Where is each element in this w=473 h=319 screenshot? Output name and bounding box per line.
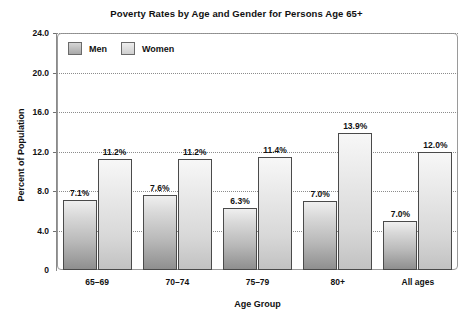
legend-swatch-women-icon bbox=[121, 42, 135, 55]
x-category-label: 75–79 bbox=[246, 277, 270, 287]
bar-men bbox=[303, 201, 337, 270]
chart-title: Poverty Rates by Age and Gender for Pers… bbox=[0, 8, 473, 19]
gridline bbox=[57, 112, 458, 113]
bar-value-label: 11.4% bbox=[263, 145, 287, 155]
bar-women bbox=[178, 159, 212, 270]
bar-value-label: 12.0% bbox=[423, 140, 447, 150]
bar-value-label: 7.0% bbox=[311, 189, 330, 199]
legend-item-men: Men bbox=[68, 42, 107, 55]
y-tick-label: 4.0 bbox=[5, 226, 49, 236]
bar-men bbox=[63, 200, 97, 270]
bar-men bbox=[383, 221, 417, 270]
x-axis-title: Age Group bbox=[57, 299, 458, 309]
bar-value-label: 7.1% bbox=[70, 188, 89, 198]
y-tick-label: 20.0 bbox=[5, 68, 49, 78]
bar-value-label: 7.6% bbox=[150, 183, 169, 193]
bar-value-label: 11.2% bbox=[103, 147, 127, 157]
bar-women bbox=[258, 157, 292, 270]
bar-value-label: 13.9% bbox=[343, 121, 367, 131]
legend-label-men: Men bbox=[89, 44, 107, 54]
legend-label-women: Women bbox=[142, 44, 174, 54]
gridline bbox=[57, 73, 458, 74]
bar-men bbox=[143, 195, 177, 270]
x-category-label: 80+ bbox=[330, 277, 344, 287]
bar-women bbox=[418, 152, 452, 271]
y-tick-label: 8.0 bbox=[5, 186, 49, 196]
bar-value-label: 7.0% bbox=[391, 209, 410, 219]
y-tick-label: 12.0 bbox=[5, 147, 49, 157]
bar-women bbox=[338, 133, 372, 270]
y-tick-label: 16.0 bbox=[5, 107, 49, 117]
gridline bbox=[57, 33, 458, 34]
x-category-label: 65–69 bbox=[85, 277, 109, 287]
x-category-label: 70–74 bbox=[165, 277, 189, 287]
chart-legend: Men Women bbox=[68, 42, 174, 55]
poverty-rates-bar-chart: Poverty Rates by Age and Gender for Pers… bbox=[0, 0, 473, 319]
y-tick-label: 24.0 bbox=[5, 28, 49, 38]
bar-value-label: 11.2% bbox=[183, 147, 207, 157]
legend-swatch-men-icon bbox=[68, 42, 82, 55]
y-tick-label: 0 bbox=[5, 265, 49, 275]
legend-item-women: Women bbox=[121, 42, 174, 55]
bar-men bbox=[223, 208, 257, 270]
bar-women bbox=[98, 159, 132, 270]
x-category-label: All ages bbox=[402, 277, 435, 287]
y-axis-line bbox=[56, 33, 57, 271]
bar-value-label: 6.3% bbox=[230, 196, 249, 206]
